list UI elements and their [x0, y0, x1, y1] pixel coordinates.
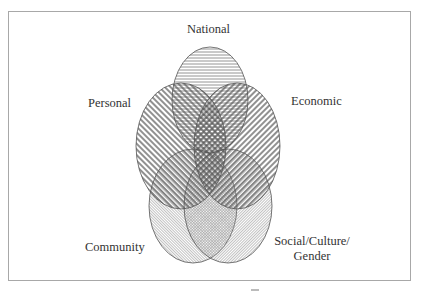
label-social-culture-gender: Social/Culture/ Gender — [271, 234, 353, 264]
venn-diagram — [0, 0, 421, 294]
label-community: Community — [85, 240, 145, 255]
set-economic — [194, 83, 280, 209]
label-national: National — [187, 22, 230, 37]
label-social-line-2: Gender — [271, 249, 353, 264]
label-economic: Economic — [291, 94, 342, 109]
label-social-line-1: Social/Culture/ — [271, 234, 353, 249]
label-personal: Personal — [88, 96, 131, 111]
page-mark — [251, 289, 259, 291]
